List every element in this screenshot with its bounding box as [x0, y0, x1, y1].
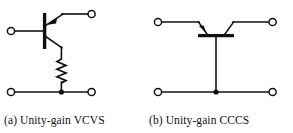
caption-panel-a: (a) Unity-gain VCVS — [0, 113, 105, 127]
circuit-diagram-cccs — [147, 0, 293, 105]
figure-panel-a: (a) Unity-gain VCVS — [0, 0, 146, 133]
figure-panel-b: (b) Unity-gain CCCS — [147, 0, 293, 133]
terminal-input-positive[interactable] — [7, 27, 14, 34]
circuit-diagram-vcvs — [0, 0, 146, 105]
collector-lead-wire — [45, 36, 62, 48]
terminal-input-negative[interactable] — [154, 88, 161, 95]
bottom-rail-junction-dot — [213, 89, 218, 94]
emitter-arrowhead — [199, 25, 207, 33]
terminal-output-negative[interactable] — [269, 88, 276, 95]
terminal-output-positive[interactable] — [269, 18, 276, 25]
collector-lead-wire — [225, 22, 234, 34]
terminal-input-negative[interactable] — [7, 88, 14, 95]
caption-panel-b: (b) Unity-gain CCCS — [147, 113, 249, 127]
resistor-zigzag — [57, 59, 66, 83]
terminal-input-positive[interactable] — [154, 18, 161, 25]
figure-container: (a) Unity-gain VCVS — [0, 0, 293, 133]
bottom-rail-junction-dot — [59, 89, 64, 94]
terminal-output-positive[interactable] — [88, 10, 95, 17]
emitter-arrowhead — [46, 18, 57, 25]
terminal-output-negative[interactable] — [88, 88, 95, 95]
